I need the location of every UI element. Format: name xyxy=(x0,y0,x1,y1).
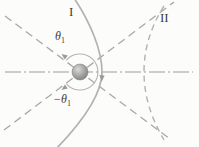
asymptote-line-ascending xyxy=(4,2,174,130)
trajectory-direction-arrowhead-icon xyxy=(99,75,104,82)
theta1-subscript: 1 xyxy=(61,36,65,45)
neg-theta1-subscript: 1 xyxy=(67,99,71,108)
nucleus-sphere xyxy=(72,64,88,80)
scattering-trajectories-figure: I II θ1 −θ1 xyxy=(0,0,199,147)
trajectory-ii-curve xyxy=(144,6,164,140)
neg-theta1-angle-label: −θ1 xyxy=(53,93,71,108)
trajectory-i-label: I xyxy=(69,5,73,18)
neg-theta1-symbol: −θ xyxy=(53,92,67,106)
neg-theta1-arc-arrowhead-icon xyxy=(62,84,68,90)
theta1-angle-label: θ1 xyxy=(55,30,65,45)
trajectory-ii-label: II xyxy=(160,11,169,24)
asymptote-line-descending xyxy=(5,16,170,139)
diagram-canvas xyxy=(0,0,199,147)
